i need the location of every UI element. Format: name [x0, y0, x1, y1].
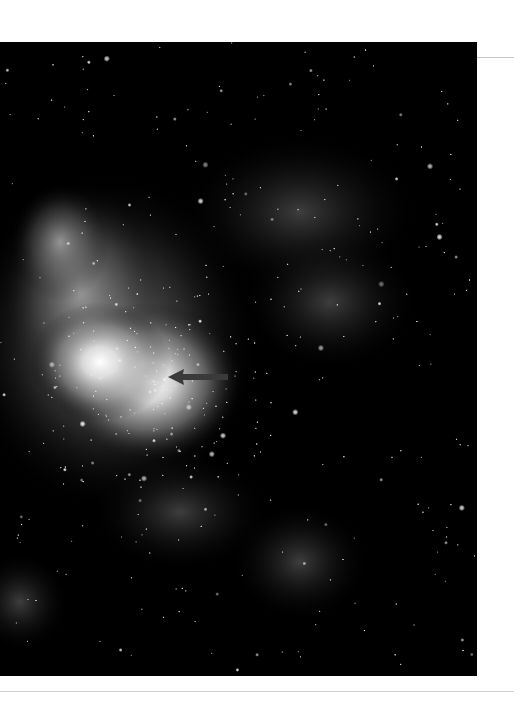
star: [229, 206, 231, 208]
star: [22, 259, 24, 261]
star: [425, 245, 427, 247]
star: [148, 196, 150, 198]
star: [446, 536, 448, 538]
star: [234, 375, 236, 377]
star: [5, 82, 7, 84]
star: [318, 345, 324, 351]
star: [152, 379, 156, 383]
star: [302, 562, 306, 566]
star: [37, 118, 39, 120]
star: [133, 330, 135, 332]
star: [194, 427, 196, 429]
star: [84, 220, 86, 222]
star: [140, 486, 142, 488]
star: [235, 343, 237, 345]
star: [86, 89, 88, 91]
star: [96, 260, 98, 262]
star: [418, 246, 420, 248]
star: [188, 401, 190, 403]
star: [166, 438, 168, 440]
star: [254, 371, 256, 373]
star: [209, 451, 215, 457]
star: [73, 332, 75, 334]
star: [397, 316, 399, 318]
star: [270, 298, 272, 300]
star: [459, 505, 465, 511]
star: [297, 209, 299, 211]
star: [287, 263, 289, 265]
star: [270, 402, 272, 404]
star: [136, 333, 138, 335]
star: [126, 430, 128, 432]
star: [432, 529, 434, 531]
star: [191, 380, 193, 382]
star: [434, 573, 436, 575]
star: [159, 46, 161, 48]
star: [95, 346, 97, 348]
star: [28, 450, 30, 452]
star: [400, 663, 402, 665]
star: [444, 580, 446, 582]
star: [300, 288, 302, 290]
star: [215, 405, 217, 407]
star: [307, 519, 309, 521]
star: [85, 306, 87, 308]
star: [41, 374, 43, 376]
star: [115, 433, 117, 435]
star: [253, 455, 255, 457]
star: [298, 290, 300, 292]
star: [220, 433, 226, 439]
star: [188, 354, 190, 356]
star: [178, 539, 180, 541]
star: [63, 425, 65, 427]
star: [390, 266, 392, 268]
star: [153, 408, 155, 410]
star: [145, 375, 147, 377]
star: [400, 450, 402, 452]
star: [363, 629, 365, 631]
star: [82, 481, 84, 483]
star: [416, 320, 418, 322]
star: [162, 389, 164, 391]
star: [65, 573, 67, 575]
star: [255, 399, 257, 401]
star: [82, 307, 84, 309]
star: [56, 385, 58, 387]
star: [54, 370, 56, 372]
star: [420, 456, 422, 458]
star: [422, 511, 424, 513]
star: [186, 404, 192, 410]
star: [392, 338, 394, 340]
star: [168, 339, 170, 341]
star: [337, 184, 339, 186]
star: [342, 558, 344, 560]
star: [222, 416, 224, 418]
star: [87, 60, 91, 64]
star: [277, 276, 279, 278]
star: [183, 348, 185, 350]
nebula-glow: [0, 132, 420, 652]
star: [156, 428, 158, 430]
star: [372, 65, 374, 67]
star: [449, 178, 451, 180]
star: [300, 129, 302, 131]
star: [299, 336, 301, 338]
star: [454, 255, 458, 259]
star: [232, 178, 234, 180]
star: [447, 103, 449, 105]
star: [395, 603, 397, 605]
star: [297, 651, 299, 653]
star: [39, 277, 41, 279]
star: [106, 398, 108, 400]
star: [149, 552, 151, 554]
star: [135, 541, 137, 543]
star: [256, 96, 258, 98]
star: [176, 300, 178, 302]
star: [187, 109, 189, 111]
star: [113, 94, 115, 96]
star: [88, 111, 90, 113]
star: [336, 304, 338, 306]
star: [468, 279, 470, 281]
nebula-upper: [10, 182, 110, 302]
star: [194, 296, 196, 298]
